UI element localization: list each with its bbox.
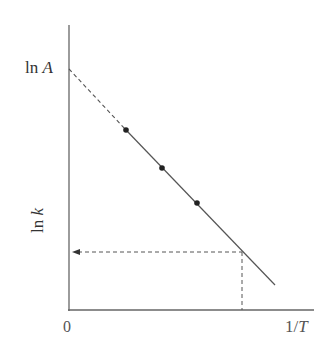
- data-point: [123, 127, 129, 133]
- extrapolated-line: [69, 69, 126, 130]
- data-point: [194, 200, 200, 206]
- arrow-left-icon: [72, 249, 80, 255]
- y-axis-label: ln k: [28, 208, 48, 233]
- intercept-label: ln A: [25, 58, 53, 78]
- fitted-line: [126, 130, 275, 285]
- origin-label: 0: [63, 318, 71, 336]
- arrhenius-plot: [0, 0, 335, 355]
- data-point: [159, 165, 165, 171]
- x-axis-label: 1/T: [285, 317, 308, 337]
